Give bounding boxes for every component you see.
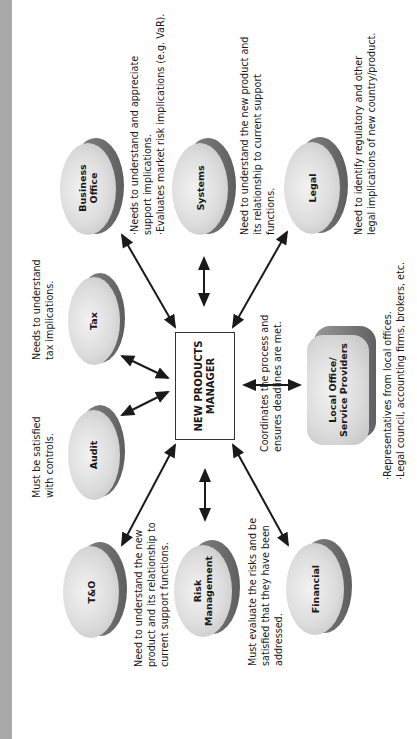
business-office-label: BusinessOffice — [77, 164, 99, 211]
local-office-note: ·Representatives from local offices. ·Le… — [381, 262, 407, 480]
audit-label: Audit — [88, 441, 99, 470]
t-and-o-note: Need to understand the new product and i… — [132, 522, 171, 667]
business-office-note: ·Needs to understand and appreciate supp… — [128, 14, 167, 235]
arrow-audit — [122, 392, 168, 415]
arrow-tax — [122, 356, 168, 378]
new-products-manager-note: Coordinates the process and ensures dead… — [258, 315, 284, 452]
tax-note: Needs to understand tax implications. — [30, 259, 56, 360]
risk-management-note: Must evaluate the risks and be satisfied… — [246, 518, 285, 666]
new-products-manager-label: NEW PRODUCTSMANAGER — [193, 340, 217, 431]
audit-note: Must be satisfied with controls. — [30, 416, 56, 498]
tax-label: Tax — [88, 312, 99, 330]
systems-note: Need to understand the new product and i… — [238, 37, 277, 235]
legal-label: Legal — [307, 174, 318, 203]
systems-label: Systems — [195, 165, 206, 210]
legal-note: Need to identify regulatory and other le… — [352, 33, 378, 235]
arrow-business-office — [122, 235, 175, 327]
risk-management-label: RiskManagement — [192, 556, 214, 626]
local-office-label: Local Office/Service Providers — [327, 343, 349, 437]
financial-label: Financial — [310, 565, 321, 613]
arrow-legal — [233, 232, 287, 327]
t-and-o-label: T&O — [86, 581, 97, 604]
